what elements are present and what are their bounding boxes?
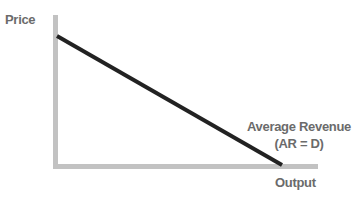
- y-axis-label: Price: [5, 12, 35, 27]
- x-axis-label: Output: [275, 175, 316, 190]
- curve-label: Average Revenue (AR = D): [244, 118, 354, 152]
- curve-label-line2: (AR = D): [244, 135, 354, 152]
- curve-label-line1: Average Revenue: [244, 118, 354, 135]
